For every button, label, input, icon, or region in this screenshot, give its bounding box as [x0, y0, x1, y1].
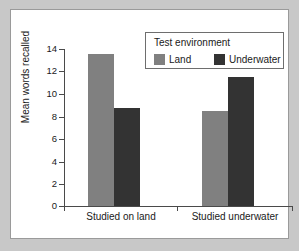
legend-label-land: Land: [169, 54, 191, 65]
chart-legend: Test environment Land Underwater: [145, 32, 284, 69]
legend-swatch-land-icon: [154, 54, 165, 65]
x-category-label-0: Studied on land: [61, 211, 181, 222]
legend-title: Test environment: [154, 37, 230, 48]
bar-studied-underwater-land: [202, 111, 228, 206]
bar-studied-on-land-underwater: [114, 108, 140, 206]
legend-entries: Land Underwater: [154, 53, 282, 66]
bar-studied-underwater-underwater: [228, 77, 254, 206]
x-axis-line: [64, 206, 292, 207]
chart-panel: 14 12 10 8 6 4 2 0 Mean words recalled: [10, 9, 289, 239]
bar-studied-on-land-land: [88, 54, 114, 207]
legend-swatch-underwater-icon: [214, 54, 225, 65]
screenshot-background: 14 12 10 8 6 4 2 0 Mean words recalled: [0, 0, 299, 251]
x-category-label-1: Studied underwater: [175, 211, 295, 222]
chart-plot-area: 14 12 10 8 6 4 2 0 Mean words recalled: [11, 10, 290, 240]
legend-label-underwater: Underwater: [229, 54, 281, 65]
